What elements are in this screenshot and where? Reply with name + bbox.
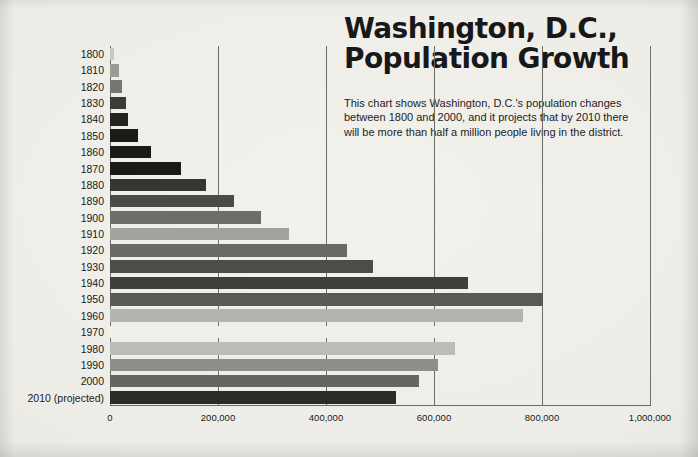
bar-1820[interactable]: [110, 80, 122, 93]
bar-1900[interactable]: [110, 211, 261, 224]
bar-1970[interactable]: [110, 326, 519, 339]
y-axis-label-1890: 1890: [81, 193, 104, 209]
y-axis-label-1870: 1870: [81, 161, 104, 177]
bar-2010[interactable]: [110, 391, 396, 404]
y-axis-label-1980: 1980: [81, 341, 104, 357]
x-axis-tick-label-400000: 400,000: [309, 412, 343, 423]
gridline-1000000: [650, 46, 651, 406]
x-axis-tick-label-1000000: 1,000,000: [629, 412, 671, 423]
x-axis-tick-label-0: 0: [107, 412, 112, 423]
bar-1890[interactable]: [110, 195, 234, 208]
bar-1870[interactable]: [110, 162, 181, 175]
y-axis-label-1960: 1960: [81, 308, 104, 324]
y-axis-label-1940: 1940: [81, 275, 104, 291]
y-axis-label-1850: 1850: [81, 128, 104, 144]
y-axis-label-1810: 1810: [81, 62, 104, 78]
y-axis-label-1970: 1970: [81, 324, 104, 340]
bar-1810[interactable]: [110, 64, 119, 77]
y-axis-label-1800: 1800: [81, 46, 104, 62]
x-axis-tick-label-800000: 800,000: [525, 412, 559, 423]
y-axis-label-1820: 1820: [81, 79, 104, 95]
y-axis-label-1910: 1910: [81, 226, 104, 242]
y-axis-label-1840: 1840: [81, 111, 104, 127]
bar-2000[interactable]: [110, 375, 419, 388]
bar-1940[interactable]: [110, 277, 468, 290]
bar-1880[interactable]: [110, 179, 206, 192]
bar-1840[interactable]: [110, 113, 128, 126]
x-axis-line: [110, 405, 650, 406]
chart-page: Washington, D.C., Population Growth This…: [0, 0, 698, 457]
chart-title-line-1: Washington, D.C.,: [344, 14, 684, 44]
chart-plot-area: 1800181018201830184018501860187018801890…: [110, 46, 650, 406]
y-axis-label-1830: 1830: [81, 95, 104, 111]
y-axis-label-1900: 1900: [81, 210, 104, 226]
y-axis-label-1990: 1990: [81, 357, 104, 373]
bar-1980[interactable]: [110, 342, 455, 355]
bar-1860[interactable]: [110, 146, 151, 159]
bar-1800[interactable]: [110, 48, 114, 61]
x-axis-tick-label-600000: 600,000: [417, 412, 451, 423]
bar-1910[interactable]: [110, 228, 289, 241]
y-axis-label-2010: 2010 (projected): [28, 390, 104, 406]
y-axis-label-2000: 2000: [81, 373, 104, 389]
bar-1930[interactable]: [110, 260, 373, 273]
bar-1850[interactable]: [110, 129, 138, 142]
x-axis-tick-label-200000: 200,000: [201, 412, 235, 423]
gridline-800000: [542, 46, 543, 406]
bar-1950[interactable]: [110, 293, 543, 306]
y-axis-label-1950: 1950: [81, 291, 104, 307]
bar-1960[interactable]: [110, 309, 523, 322]
y-axis-label-1880: 1880: [81, 177, 104, 193]
bar-1920[interactable]: [110, 244, 347, 257]
bar-1830[interactable]: [110, 97, 126, 110]
y-axis-label-1860: 1860: [81, 144, 104, 160]
y-axis-label-1930: 1930: [81, 259, 104, 275]
y-axis-label-1920: 1920: [81, 242, 104, 258]
bar-1990[interactable]: [110, 359, 438, 372]
